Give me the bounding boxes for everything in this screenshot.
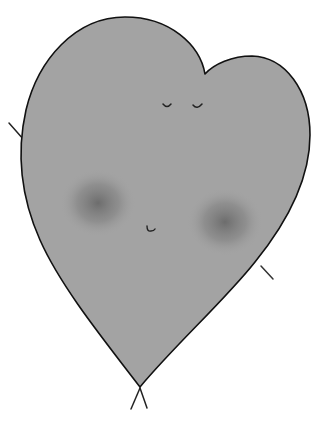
right-arm [261, 266, 273, 279]
right-leg [140, 388, 147, 408]
left-cheek-blush [60, 169, 136, 237]
left-leg [131, 388, 140, 409]
right-cheek-blush [187, 188, 263, 256]
